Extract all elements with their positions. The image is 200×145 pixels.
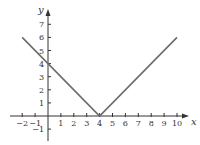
x-tick-label: 2 <box>71 119 76 128</box>
x-tick-label: 4 <box>97 119 102 128</box>
y-tick-label: 2 <box>39 86 44 95</box>
x-tick-label: 3 <box>84 119 89 128</box>
y-tick-label: −1 <box>32 125 44 134</box>
x-tick-label: −2 <box>16 119 28 128</box>
x-tick-label: 7 <box>136 119 141 128</box>
x-tick-label: 10 <box>172 119 182 128</box>
x-tick-label: 9 <box>162 119 167 128</box>
chart-area: −2−112345678910−11234567xy <box>0 0 200 145</box>
y-tick-label: 6 <box>39 33 44 42</box>
y-axis-label: y <box>37 4 44 15</box>
y-tick-label: 7 <box>39 20 44 29</box>
x-tick-label: 5 <box>110 119 115 128</box>
y-tick-label: 4 <box>39 60 44 69</box>
y-tick-label: 1 <box>39 99 44 108</box>
tick-marks <box>22 24 177 129</box>
x-tick-label: 6 <box>123 119 128 128</box>
x-axis-arrow-icon <box>182 114 189 119</box>
x-tick-label: 1 <box>58 119 63 128</box>
x-tick-label: 8 <box>149 119 154 128</box>
plot-svg: −2−112345678910−11234567xy <box>0 0 200 145</box>
y-axis-arrow-icon <box>46 9 51 16</box>
axis-labels: −2−112345678910−11234567xy <box>16 4 197 134</box>
y-tick-label: 5 <box>39 47 44 56</box>
data-series <box>22 37 177 116</box>
y-tick-label: 3 <box>39 73 44 82</box>
x-axis-label: x <box>191 116 197 127</box>
series-line <box>22 37 177 116</box>
